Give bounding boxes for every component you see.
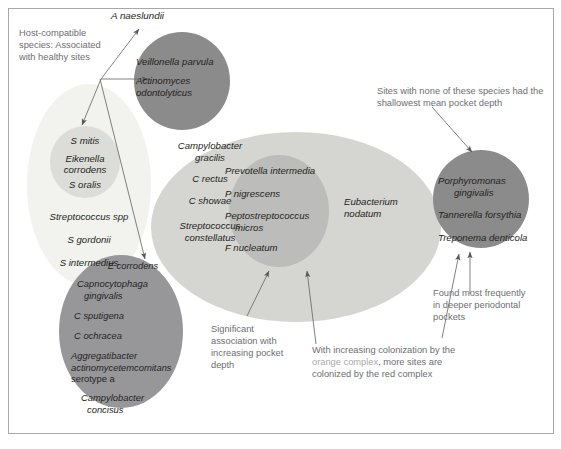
annotation-increasing-colonization: With increasing colonization by the oran…: [312, 345, 512, 381]
arrow-to-yellow-inner: [82, 79, 101, 125]
annotation-significant-line3: increasing pocket: [211, 348, 303, 360]
annotation-host-compatible-line3: with healthy sites: [19, 52, 134, 64]
green-species: E corrodens Capnocytophaga gingivalis C …: [59, 260, 183, 415]
annotation-colonization-line2: orange complex, more sites are: [312, 357, 512, 369]
annotation-shallowest-line2: shallowest mean pocket depth: [377, 98, 557, 110]
species-porphyromonas-gingivalis: Porphyromonas gingivalis: [438, 175, 534, 198]
annotation-significant-line1: Significant: [211, 324, 303, 336]
species-tannerella-forsythia: Tannerella forsythia: [438, 209, 534, 221]
orange-complex-mention: orange complex: [312, 357, 378, 367]
species-eikenella-corrodens: Eikenella corrodens: [44, 153, 126, 176]
species-c-sputigena: C sputigena: [69, 310, 183, 321]
figure-canvas: A naeslundii Host-compatible species: As…: [0, 0, 561, 449]
species-e-corrodens: E corrodens: [69, 260, 183, 271]
purple-species: Veillonella parvula Actinomyces odontoly…: [136, 55, 236, 98]
species-eubacterium-nodatum: Eubacterium nodatum: [344, 196, 430, 219]
species-veillonella-parvula: Veillonella parvula: [136, 55, 236, 69]
species-s-oralis: S oralis: [44, 177, 126, 194]
annotation-shallowest-depth: Sites with none of these species had the…: [377, 86, 557, 110]
annotation-found-line1: Found most frequently: [433, 288, 553, 300]
arrow-colonization-to-orange-inner: [307, 271, 316, 344]
red-species: Porphyromonas gingivalis Tannerella fors…: [434, 175, 534, 243]
species-campylobacter-gracilis: Campylobacter gracilis: [165, 140, 255, 163]
label-a-naeslundii: A naeslundii: [111, 10, 164, 21]
annotation-found-line3: pockets: [433, 312, 553, 324]
species-streptococcus-spp: Streptococcus spp: [27, 205, 151, 228]
arrow-significant-to-orange-inner: [247, 271, 269, 316]
annotation-colonization-line1: With increasing colonization by the: [312, 345, 512, 357]
annotation-significant-association: Significant association with increasing …: [211, 324, 303, 372]
annotation-host-compatible: Host-compatible species: Associated with…: [19, 28, 134, 64]
yellow-inner-species: S mitis Eikenella corrodens S oralis: [44, 133, 126, 194]
orange-inner-species: Prevotella intermedia P nigrescens Pepto…: [225, 165, 340, 254]
species-campylobacter-concisus: Campylobacter concisus: [69, 392, 183, 415]
species-treponema-denticola: Treponema denticola: [438, 232, 534, 244]
species-s-mitis: S mitis: [44, 133, 126, 150]
species-f-nucleatum: F nucleatum: [225, 242, 340, 254]
annotation-colonization-line3: colonized by the red complex: [312, 369, 512, 381]
species-capnocytophaga-gingivalis: Capnocytophaga gingivalis: [69, 278, 183, 301]
annotation-found-line2: in deeper periodontal: [433, 300, 553, 312]
annotation-host-compatible-line1: Host-compatible: [19, 28, 134, 40]
annotation-significant-line2: association with: [211, 336, 303, 348]
species-p-nigrescens: P nigrescens: [225, 188, 340, 200]
annotation-shallowest-line1: Sites with none of these species had the: [377, 86, 557, 98]
species-c-ochracea: C ochracea: [69, 330, 183, 341]
arrow-shallowest-to-red: [432, 107, 472, 152]
orange-species-right: Eubacterium nodatum: [344, 196, 430, 219]
species-peptostreptococcus-micros: Peptostreptococcus micros: [225, 210, 340, 233]
species-actinomyces-odontolyticus: Actinomyces odontolyticus: [136, 75, 236, 98]
annotation-found-most-frequently: Found most frequently in deeper periodon…: [433, 288, 553, 324]
species-prevotella-intermedia: Prevotella intermedia: [225, 165, 340, 177]
species-s-gordonii: S gordonii: [27, 228, 151, 251]
species-aggregatibacter-actinomycetemcomitans: Aggregatibacter actinomycetemcomitans se…: [69, 350, 183, 384]
annotation-host-compatible-line2: species: Associated: [19, 40, 134, 52]
annotation-significant-line4: depth: [211, 360, 303, 372]
